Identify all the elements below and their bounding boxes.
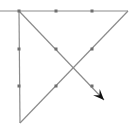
diagonal-up-line (20, 11, 128, 123)
dot-4 (18, 48, 21, 51)
dot-3 (91, 10, 94, 13)
dot-7 (18, 85, 21, 88)
dot-8 (55, 85, 58, 88)
nine-dots-diagram (0, 0, 132, 130)
dot-2 (55, 10, 58, 13)
dot-1 (18, 10, 21, 13)
dot-6 (91, 48, 94, 51)
dot-9 (91, 85, 94, 88)
left-vertical-line (19, 11, 20, 123)
line-segments (0, 11, 128, 123)
dot-5 (55, 48, 58, 51)
